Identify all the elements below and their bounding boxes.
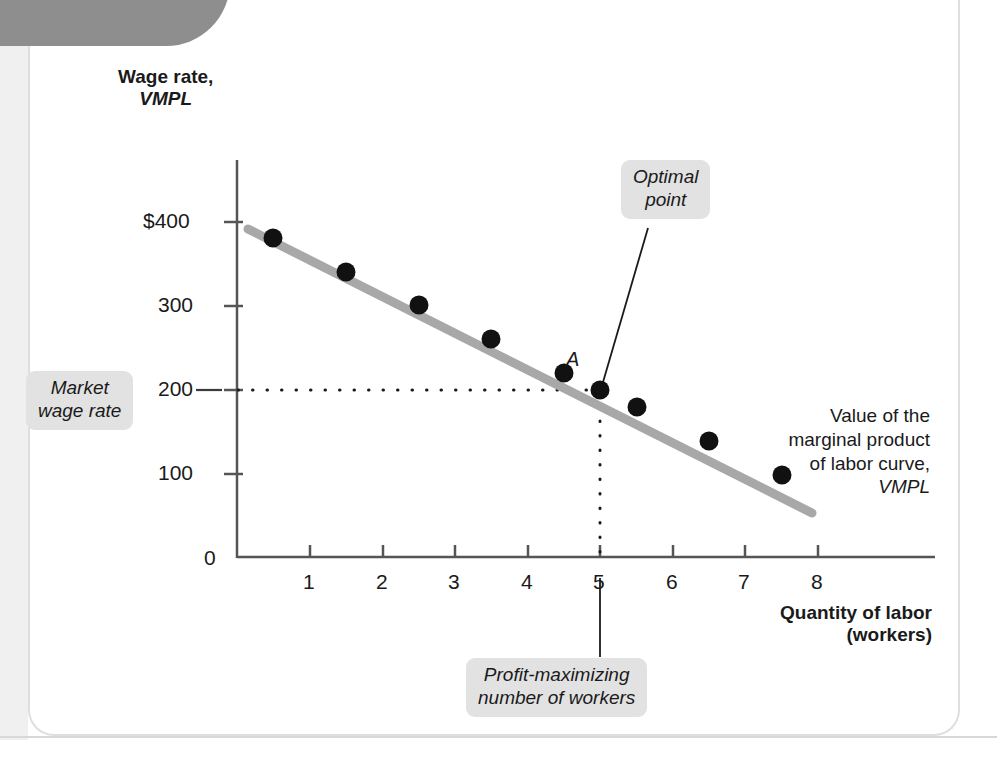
profit-maximizing-workers-callout: Profit-maximizing number of workers	[466, 658, 647, 717]
x-tick-label-1: 1	[303, 570, 315, 595]
x-tick-label-6: 6	[666, 570, 678, 595]
data-point-0.5-380	[264, 229, 283, 248]
data-point-3.5-260	[482, 330, 501, 349]
x-tick-label-7: 7	[738, 570, 750, 595]
y-axis-title-line1: Wage rate,	[118, 66, 213, 88]
y-tick-label-400: $400	[143, 209, 190, 234]
y-axis-title-line2: VMPL	[118, 88, 213, 110]
y-tick-label-200: 200	[158, 377, 193, 402]
optimal-point-leader-line	[601, 228, 648, 389]
profit-max-line2: number of workers	[478, 687, 635, 710]
vmpl-data-points	[264, 229, 792, 485]
vmpl-curve-label-line3: of labor curve,	[740, 452, 930, 476]
optimal-point-callout-line2: point	[633, 189, 698, 212]
x-tick-label-3: 3	[448, 570, 460, 595]
vmpl-curve-label-line4: VMPL	[740, 475, 930, 499]
data-point-5.5-180	[628, 398, 647, 417]
optimal-point-callout: Optimal point	[621, 160, 710, 219]
data-point-1.5-340	[337, 263, 356, 282]
data-point-6.5-140	[700, 432, 719, 451]
market-wage-rate-line2: wage rate	[38, 400, 121, 423]
profit-max-line1: Profit-maximizing	[478, 664, 635, 687]
x-tick-label-5: 5	[593, 570, 605, 595]
x-axis-title-line1: Quantity of labor	[736, 602, 932, 624]
market-wage-rate-line1: Market	[38, 377, 121, 400]
optimal-point-callout-line1: Optimal	[633, 166, 698, 189]
vmpl-curve-label: Value of the marginal product of labor c…	[740, 404, 930, 499]
y-axis-ticks	[224, 222, 243, 474]
vmpl-curve-label-line2: marginal product	[740, 428, 930, 452]
x-tick-label-4: 4	[521, 570, 533, 595]
optimal-point-label: A	[566, 348, 579, 372]
vmpl-curve-label-line1: Value of the	[740, 404, 930, 428]
data-point-2.5-300	[410, 296, 429, 315]
y-axis-title: Wage rate, VMPL	[118, 66, 213, 111]
x-axis-title: Quantity of labor (workers)	[736, 602, 932, 647]
y-tick-label-300: 300	[158, 293, 193, 318]
market-wage-rate-callout: Market wage rate	[26, 371, 133, 430]
x-tick-label-2: 2	[376, 570, 388, 595]
vmpl-chart	[0, 0, 997, 766]
vmpl-curve-line	[248, 229, 812, 513]
data-point-5-200-optimal	[591, 381, 610, 400]
x-axis-title-line2: (workers)	[736, 624, 932, 646]
y-tick-label-100: 100	[158, 461, 193, 486]
x-tick-label-8: 8	[811, 570, 823, 595]
origin-label: 0	[204, 546, 216, 571]
